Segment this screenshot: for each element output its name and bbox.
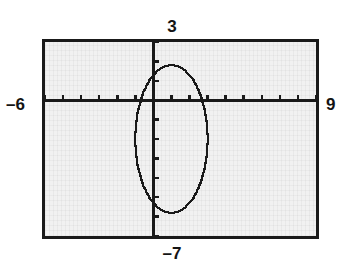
x-min-label: –6 [6,96,25,113]
y-max-label: 3 [0,18,344,35]
graph-viewport [42,39,319,239]
ellipse-curve [135,65,208,213]
graph-plot [45,42,316,236]
calculator-graph-screenshot: 3 –6 9 –7 [0,0,344,276]
y-min-label: –7 [0,245,344,262]
axes-group [45,42,316,236]
x-max-label: 9 [326,96,335,113]
